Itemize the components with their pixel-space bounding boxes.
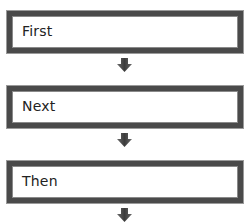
down-arrow-icon: [117, 133, 132, 147]
down-arrow-icon: [117, 208, 132, 222]
step-box-first: First: [7, 11, 243, 53]
down-arrow-icon: [117, 58, 132, 72]
step-label: Next: [22, 98, 55, 114]
step-label: First: [22, 23, 52, 39]
step-box-next: Next: [7, 86, 243, 128]
step-label: Then: [22, 173, 58, 189]
step-box-then: Then: [7, 161, 243, 203]
